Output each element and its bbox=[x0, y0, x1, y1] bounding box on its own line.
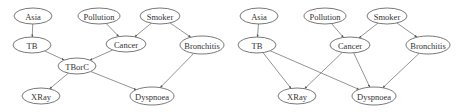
node-dyspnoea: Dyspnoea bbox=[352, 87, 396, 105]
edge-tborc-to-xray bbox=[50, 73, 69, 89]
node-label: Dyspnoea bbox=[357, 92, 391, 102]
edge-pollution-to-cancer bbox=[332, 24, 344, 38]
node-bronchitis: Bronchitis bbox=[406, 36, 450, 54]
node-label: Asia bbox=[251, 12, 267, 22]
node-xray: XRay bbox=[278, 88, 316, 104]
node-xray: XRay bbox=[22, 88, 60, 104]
diagram-right: AsiaTBPollutionSmokerCancerBronchitisXRa… bbox=[238, 8, 450, 105]
edge-smoker-to-bronchitis bbox=[397, 23, 417, 37]
edge-asia-to-tb bbox=[258, 24, 259, 37]
edge-cancer-to-tborc bbox=[90, 50, 113, 60]
node-tb: TB bbox=[13, 37, 51, 53]
node-label: Bronchitis bbox=[184, 41, 219, 51]
edge-bronchitis-to-dyspnoea bbox=[383, 53, 420, 87]
node-asia: Asia bbox=[240, 8, 278, 24]
edge-pollution-to-cancer bbox=[106, 24, 119, 37]
edges bbox=[32, 23, 194, 90]
edge-tb-to-tborc bbox=[45, 51, 65, 60]
edge-bronchitis-to-dyspnoea bbox=[160, 53, 194, 87]
edge-smoker-to-bronchitis bbox=[170, 23, 191, 37]
node-label: TB bbox=[27, 41, 38, 51]
node-asia: Asia bbox=[14, 8, 52, 24]
bayesian-network-canvas: AsiaTBPollutionSmokerCancerBronchitisTBo… bbox=[0, 0, 460, 112]
node-bronchitis: Bronchitis bbox=[180, 36, 224, 54]
node-label: Smoker bbox=[374, 12, 401, 22]
node-pollution: Pollution bbox=[304, 8, 346, 24]
node-label: Smoker bbox=[147, 12, 174, 22]
node-dyspnoea: Dyspnoea bbox=[130, 87, 174, 105]
node-label: XRay bbox=[287, 92, 308, 102]
node-label: XRay bbox=[31, 92, 52, 102]
diagram-left: AsiaTBPollutionSmokerCancerBronchitisTBo… bbox=[13, 8, 224, 105]
node-label: TBorC bbox=[65, 62, 89, 72]
node-tborc: TBorC bbox=[58, 58, 96, 74]
edges bbox=[258, 23, 420, 89]
edge-smoker-to-cancer bbox=[359, 23, 378, 38]
edge-cancer-to-xray bbox=[305, 52, 343, 88]
node-smoker: Smoker bbox=[140, 8, 180, 24]
node-label: Dyspnoea bbox=[135, 92, 169, 102]
node-label: Cancer bbox=[338, 41, 362, 51]
node-label: Pollution bbox=[309, 12, 341, 22]
edge-tb-to-dyspnoea bbox=[270, 51, 359, 90]
node-label: Bronchitis bbox=[410, 41, 445, 51]
node-label: Cancer bbox=[114, 40, 138, 50]
node-label: Asia bbox=[25, 12, 41, 22]
node-tb: TB bbox=[238, 37, 276, 53]
node-cancer: Cancer bbox=[106, 36, 146, 52]
node-label: TB bbox=[252, 41, 263, 51]
edge-tborc-to-dyspnoea bbox=[91, 72, 136, 90]
node-pollution: Pollution bbox=[78, 8, 120, 24]
node-smoker: Smoker bbox=[367, 8, 407, 24]
node-cancer: Cancer bbox=[330, 37, 370, 53]
node-label: Pollution bbox=[83, 12, 115, 22]
edge-cancer-to-dyspnoea bbox=[354, 53, 370, 87]
edge-smoker-to-cancer bbox=[135, 23, 152, 37]
